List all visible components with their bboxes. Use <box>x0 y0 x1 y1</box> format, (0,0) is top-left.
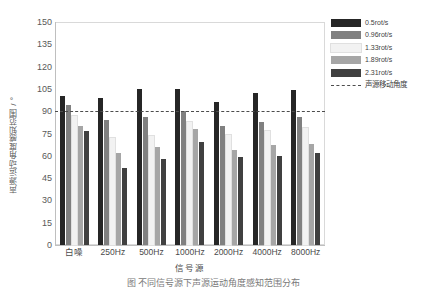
bar <box>143 117 148 245</box>
bar <box>291 90 296 245</box>
x-axis-title: 信号源 <box>55 261 325 273</box>
y-tick-label: 120 <box>4 62 52 71</box>
bar-group <box>94 22 133 245</box>
bar-group <box>132 22 171 245</box>
y-tick-label: 150 <box>4 18 52 27</box>
bar <box>104 120 109 245</box>
bar <box>303 128 308 245</box>
bar <box>214 102 219 245</box>
bar <box>220 126 225 245</box>
legend-item[interactable]: 声源移动角度 <box>331 80 426 91</box>
bar <box>193 129 198 245</box>
bar <box>226 135 231 245</box>
x-tick-label: 4000Hz <box>252 247 281 257</box>
bar-group <box>55 22 94 245</box>
legend-label: 1.89rot/s <box>365 56 392 64</box>
bar <box>84 131 89 245</box>
x-tick-label: 2000Hz <box>214 247 243 257</box>
legend-swatch-icon <box>331 56 361 64</box>
bar <box>259 122 264 245</box>
legend-label: 0.5rot/s <box>365 19 388 27</box>
figure-caption: 图 不同信号源下声源运动角度感知范围分布 <box>0 276 427 289</box>
bar <box>265 131 270 245</box>
legend-label: 2.31rot/s <box>365 69 392 77</box>
bar-group <box>248 22 287 245</box>
bar <box>72 116 77 245</box>
bar-groups <box>55 22 325 245</box>
legend-swatch-icon <box>331 44 361 52</box>
y-tick-label: 60 <box>4 151 52 160</box>
legend-item[interactable]: 1.33rot/s <box>331 42 426 53</box>
bar <box>110 138 115 245</box>
bar <box>116 153 121 245</box>
x-tick-label: 白噪 <box>65 247 83 257</box>
bar <box>161 159 166 245</box>
bar <box>199 142 204 245</box>
x-tick-label: 1000Hz <box>175 247 204 257</box>
bar <box>149 136 154 245</box>
x-tick-label: 500Hz <box>139 247 164 257</box>
legend-dashed-line-icon <box>331 85 361 86</box>
legend: 0.5rot/s0.96rot/s1.33rot/s1.89rot/s2.31r… <box>331 17 426 92</box>
bar <box>271 145 276 245</box>
bar <box>122 168 127 245</box>
bar <box>315 153 320 245</box>
y-tick-label: 15 <box>4 218 52 227</box>
legend-label: 1.33rot/s <box>365 44 392 52</box>
bar <box>60 96 65 245</box>
figure-chart: 声源运动角度感知范围 / ° 1501351201059075604530150… <box>0 0 427 289</box>
bar <box>175 89 180 245</box>
legend-item[interactable]: 0.96rot/s <box>331 30 426 41</box>
legend-swatch-icon <box>331 69 361 77</box>
legend-swatch-icon <box>331 31 361 39</box>
y-tick-label: 90 <box>4 107 52 116</box>
legend-item[interactable]: 0.5rot/s <box>331 17 426 28</box>
y-axis-tick-labels: 1501351201059075604530150 <box>0 0 52 289</box>
y-tick-label: 135 <box>4 40 52 49</box>
legend-label: 声源移动角度 <box>365 81 407 89</box>
bar <box>253 93 258 245</box>
y-tick-label: 75 <box>4 129 52 138</box>
bar <box>297 117 302 245</box>
x-axis-tick-labels: 白噪250Hz500Hz1000Hz2000Hz4000Hz8000Hz <box>55 247 325 261</box>
bar-group <box>286 22 325 245</box>
bar <box>98 98 103 245</box>
bar <box>66 105 71 245</box>
legend-label: 0.96rot/s <box>365 31 392 39</box>
bar <box>155 147 160 245</box>
y-tick-label: 105 <box>4 84 52 93</box>
bar <box>238 157 243 245</box>
x-tick-label: 250Hz <box>101 247 126 257</box>
y-tick-label: 30 <box>4 196 52 205</box>
bar-group <box>171 22 210 245</box>
bar-group <box>209 22 248 245</box>
legend-swatch-icon <box>331 19 361 27</box>
bar <box>232 150 237 245</box>
bar <box>277 156 282 245</box>
bar <box>187 122 192 245</box>
legend-item[interactable]: 2.31rot/s <box>331 67 426 78</box>
legend-item[interactable]: 1.89rot/s <box>331 55 426 66</box>
bar <box>78 126 83 245</box>
reference-line-sound-source-angle <box>55 111 325 112</box>
bar <box>309 144 314 245</box>
x-axis-line <box>55 245 325 246</box>
bar <box>181 111 186 245</box>
y-tick-label: 0 <box>4 241 52 250</box>
bar <box>137 89 142 245</box>
y-tick-label: 45 <box>4 174 52 183</box>
x-tick-label: 8000Hz <box>291 247 320 257</box>
